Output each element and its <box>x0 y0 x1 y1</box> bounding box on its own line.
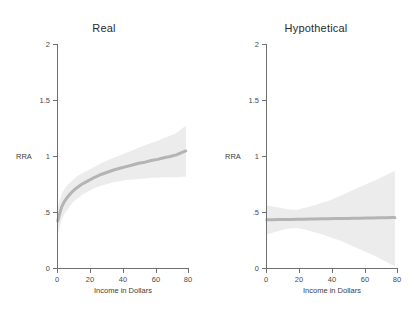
y-axis-line-real <box>57 44 58 269</box>
y-tick-p5-hypothetical <box>262 212 266 213</box>
x-axis-label-hypothetical: Income in Dollars <box>266 286 398 295</box>
y-ticklabel-p5-real: .5 <box>28 208 50 217</box>
x-ticklabel-80-real: 80 <box>176 275 200 284</box>
x-ticklabel-60-real: 60 <box>144 275 168 284</box>
panel-real: Real 2 1.5 1 .5 0 RRA 0 20 40 60 80 <box>0 0 208 316</box>
confidence-band <box>58 126 186 235</box>
x-ticklabel-40-real: 40 <box>111 275 135 284</box>
y-ticklabel-p5-hypothetical: .5 <box>237 208 259 217</box>
x-tick-40-real <box>123 269 124 273</box>
x-tick-20-hypothetical <box>299 269 300 273</box>
confidence-band <box>267 171 395 266</box>
x-tick-0-hypothetical <box>266 269 267 273</box>
x-tick-0-real <box>57 269 58 273</box>
y-axis-line-hypothetical <box>266 44 267 269</box>
y-axis-label-hypothetical: RRA <box>225 152 241 161</box>
x-tick-20-real <box>90 269 91 273</box>
y-ticklabel-0-real: 0 <box>28 264 50 273</box>
panel-title-real: Real <box>0 22 208 34</box>
x-ticklabel-40-hypothetical: 40 <box>320 275 344 284</box>
y-tick-2-hypothetical <box>262 44 266 45</box>
chart-figure: Real 2 1.5 1 .5 0 RRA 0 20 40 60 80 <box>0 0 417 316</box>
x-tick-80-hypothetical <box>397 269 398 273</box>
x-ticklabel-80-hypothetical: 80 <box>385 275 409 284</box>
y-ticklabel-0-hypothetical: 0 <box>237 264 259 273</box>
x-ticklabel-0-hypothetical: 0 <box>254 275 278 284</box>
y-ticklabel-1p5-real: 1.5 <box>28 96 50 105</box>
y-axis-label-real: RRA <box>16 152 32 161</box>
y-ticklabel-1p5-hypothetical: 1.5 <box>237 96 259 105</box>
x-ticklabel-20-hypothetical: 20 <box>287 275 311 284</box>
x-tick-80-real <box>188 269 189 273</box>
y-tick-p5-real <box>53 212 57 213</box>
x-tick-40-hypothetical <box>332 269 333 273</box>
panel-hypothetical: Hypothetical 2 1.5 1 .5 0 RRA 0 20 40 60… <box>209 0 417 316</box>
y-ticklabel-2-hypothetical: 2 <box>237 40 259 49</box>
y-tick-1-real <box>53 156 57 157</box>
x-tick-60-real <box>156 269 157 273</box>
y-tick-1p5-hypothetical <box>262 100 266 101</box>
y-tick-1-hypothetical <box>262 156 266 157</box>
y-tick-1p5-real <box>53 100 57 101</box>
x-ticklabel-60-hypothetical: 60 <box>353 275 377 284</box>
x-tick-60-hypothetical <box>365 269 366 273</box>
fitted-line <box>58 151 186 221</box>
x-axis-label-real: Income in Dollars <box>57 286 189 295</box>
fitted-line <box>267 218 395 220</box>
panel-title-hypothetical: Hypothetical <box>209 22 417 34</box>
x-ticklabel-20-real: 20 <box>78 275 102 284</box>
y-ticklabel-2-real: 2 <box>28 40 50 49</box>
y-tick-2-real <box>53 44 57 45</box>
x-ticklabel-0-real: 0 <box>45 275 69 284</box>
